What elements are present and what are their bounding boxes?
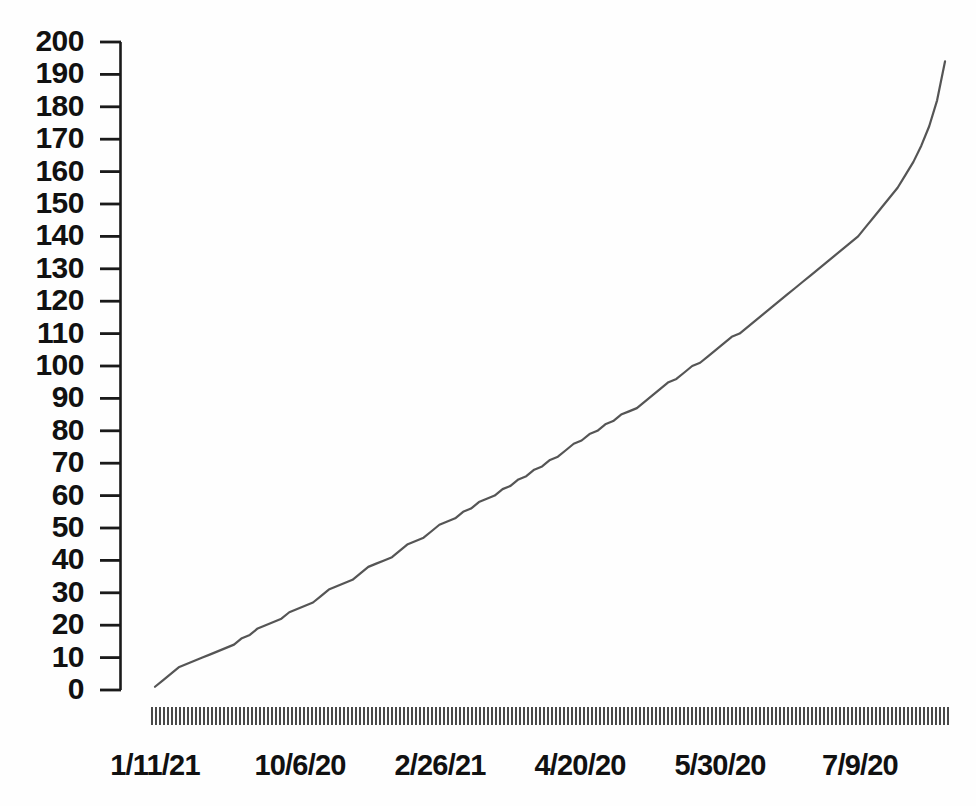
y-axis-tick-label: 130 — [0, 253, 88, 283]
y-axis-tick-label: 180 — [0, 91, 88, 121]
x-axis-tick-band — [152, 707, 948, 725]
y-axis-tick-label: 10 — [0, 642, 88, 672]
y-axis-tick-label: 50 — [0, 512, 88, 542]
chart-container: 2001901801701601501401301201101009080706… — [0, 0, 976, 806]
y-axis-tick-label: 80 — [0, 415, 88, 445]
chart-plot-area — [0, 0, 976, 806]
x-axis-tick-label: 10/6/20 — [254, 748, 345, 782]
y-axis-tick-label: 70 — [0, 447, 88, 477]
y-axis-tick-label: 190 — [0, 58, 88, 88]
x-axis-tick-label: 4/20/20 — [534, 748, 625, 782]
y-axis-tick-label: 140 — [0, 220, 88, 250]
y-axis-tick-label: 100 — [0, 350, 88, 380]
y-axis-tick-label: 60 — [0, 480, 88, 510]
y-axis-tick-label: 90 — [0, 382, 88, 412]
x-axis-labels: 1/11/2110/6/202/26/214/20/205/30/207/9/2… — [0, 748, 976, 794]
y-axis-tick-label: 0 — [0, 674, 88, 704]
y-axis-tick-label: 40 — [0, 544, 88, 574]
y-axis-tick-label: 120 — [0, 285, 88, 315]
y-axis-tick-label: 30 — [0, 577, 88, 607]
y-axis-tick-label: 200 — [0, 26, 88, 56]
x-axis-tick-label: 5/30/20 — [674, 748, 765, 782]
x-axis-tick-label: 1/11/21 — [110, 748, 200, 782]
x-axis-tick-label: 7/9/20 — [822, 748, 898, 782]
y-axis-labels: 2001901801701601501401301201101009080706… — [0, 0, 88, 806]
y-axis-tick-label: 20 — [0, 609, 88, 639]
data-series-line — [155, 61, 945, 686]
y-axis-tick-label: 150 — [0, 188, 88, 218]
y-axis-tick-label: 110 — [0, 318, 88, 348]
y-axis-tick-marks — [100, 42, 121, 690]
x-axis-tick-label: 2/26/21 — [394, 748, 485, 782]
y-axis-tick-label: 170 — [0, 123, 88, 153]
y-axis-tick-label: 160 — [0, 156, 88, 186]
